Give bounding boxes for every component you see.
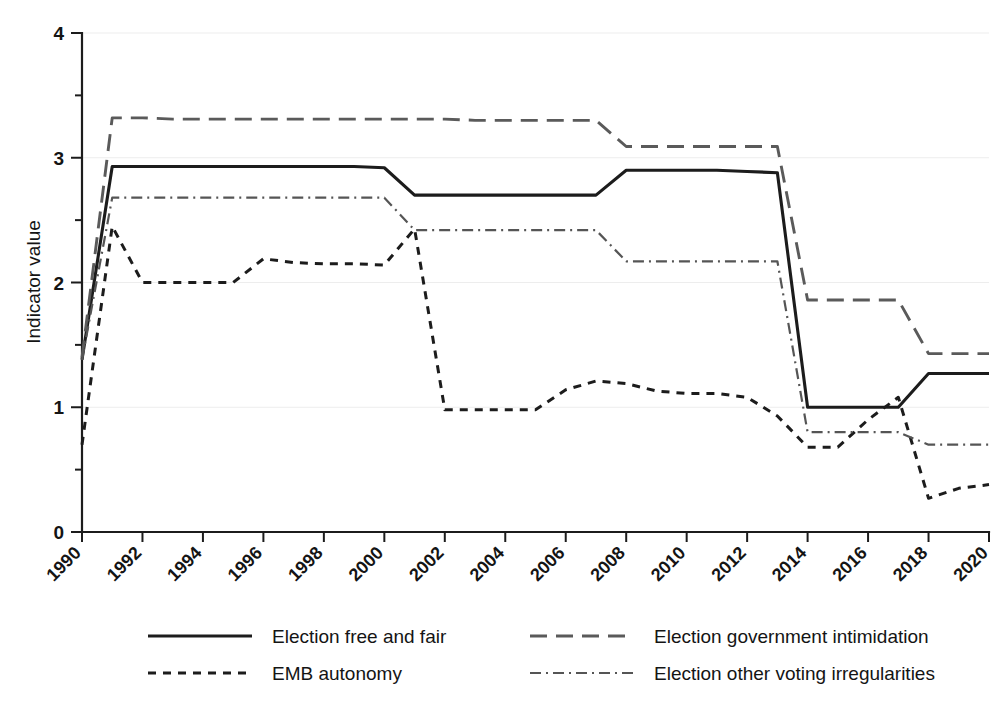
- x-tick-label: 2000: [345, 543, 387, 585]
- y-tick-label: 2: [53, 273, 64, 294]
- line-chart: 01234 1990199219941996199820002002200420…: [0, 0, 1007, 705]
- x-tick-label: 2020: [949, 543, 991, 585]
- legend-label-0: Election free and fair: [272, 626, 447, 647]
- x-tick-label: 1994: [163, 543, 205, 585]
- x-tick-label: 1996: [224, 543, 266, 585]
- x-tick-label: 2004: [466, 543, 508, 585]
- legend-label-1: Election government intimidation: [654, 626, 929, 647]
- series-line-1: [82, 118, 989, 358]
- x-tick-label: 2014: [768, 543, 810, 585]
- gridlines: [82, 33, 989, 532]
- y-tick-label: 1: [53, 397, 64, 418]
- x-tick-label: 2018: [889, 543, 931, 585]
- series-line-2: [82, 226, 989, 498]
- x-tick-label: 1990: [42, 543, 84, 585]
- x-tick-label: 2012: [708, 543, 750, 585]
- chart-figure: 01234 1990199219941996199820002002200420…: [0, 0, 1007, 705]
- y-tick-label: 3: [53, 148, 64, 169]
- x-tick-label: 2010: [647, 543, 689, 585]
- y-axis-ticks: [71, 33, 82, 532]
- x-tick-label: 2006: [526, 543, 568, 585]
- chart-legend: Election free and fairElection governmen…: [148, 626, 935, 684]
- x-tick-label: 2016: [828, 543, 870, 585]
- x-tick-label: 1998: [284, 543, 326, 585]
- series-lines: [82, 118, 989, 498]
- x-axis-ticks: [82, 532, 989, 542]
- x-tick-label: 2002: [405, 543, 447, 585]
- y-axis-title: Indicator value: [23, 220, 44, 344]
- y-tick-label: 0: [53, 522, 64, 543]
- legend-label-3: Election other voting irregularities: [654, 663, 935, 684]
- x-tick-label: 1992: [103, 543, 145, 585]
- y-tick-label: 4: [53, 23, 64, 44]
- x-tick-label: 2008: [587, 543, 629, 585]
- legend-label-2: EMB autonomy: [272, 663, 402, 684]
- series-line-0: [82, 166, 989, 407]
- y-axis-tick-labels: 01234: [53, 23, 64, 543]
- x-axis-tick-labels: 1990199219941996199820002002200420062008…: [42, 543, 991, 585]
